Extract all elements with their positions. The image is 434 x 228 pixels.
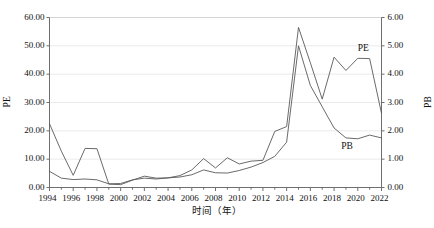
chart-container: PE PB 时间（年） 0.0010.0020.0030.0040.0050.0… bbox=[0, 0, 434, 228]
gridlines bbox=[50, 18, 382, 188]
series-label-pb: PB bbox=[341, 141, 353, 151]
series-line-pe bbox=[50, 27, 382, 184]
x-tick-marks bbox=[50, 188, 382, 192]
plot-area bbox=[0, 0, 434, 228]
series-lines bbox=[50, 27, 382, 184]
series-label-pe: PE bbox=[358, 43, 369, 53]
